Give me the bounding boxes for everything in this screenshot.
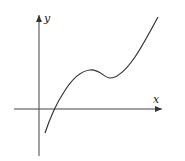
x-axis-label: x xyxy=(153,93,160,106)
y-axis-label: y xyxy=(43,12,51,25)
function-curve xyxy=(45,17,158,133)
function-graph: x y xyxy=(0,0,185,161)
